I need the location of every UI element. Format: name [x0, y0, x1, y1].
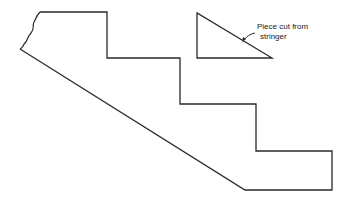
cut-piece-label-line2: stringer — [257, 32, 308, 42]
broken-edge — [20, 12, 40, 49]
cut-piece-label: Piece cut from stringer — [257, 22, 308, 42]
cut-piece-label-line1: Piece cut from — [257, 22, 308, 32]
